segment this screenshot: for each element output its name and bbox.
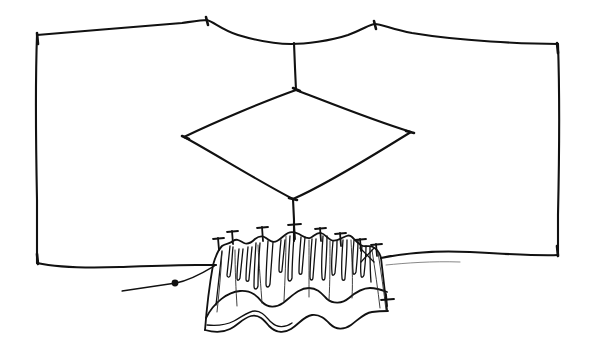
sketch-drawing: [0, 0, 602, 356]
leader-dot: [172, 280, 179, 287]
corner-tick-top-right: [557, 43, 558, 53]
canvas-background: [0, 0, 602, 356]
membrane-left-edge: [36, 35, 37, 263]
membrane-right-edge: [558, 44, 559, 255]
sketch-canvas: Hand-drawn line sketch A large quadrilat…: [0, 0, 602, 356]
corner-tick-bottom-right: [557, 246, 558, 256]
corner-tick-top-left: [37, 33, 38, 44]
corner-tick-bottom-left: [37, 254, 38, 264]
